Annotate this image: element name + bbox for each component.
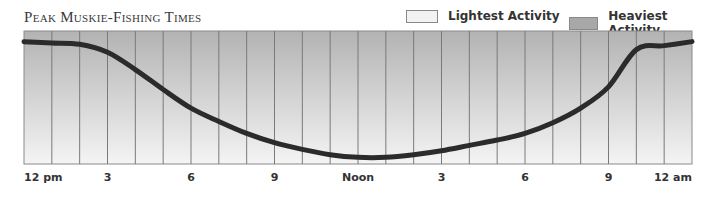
x-tick-label: 9 [605, 171, 613, 184]
chart-plot-area [0, 0, 713, 200]
x-tick-label: 3 [104, 171, 112, 184]
x-axis-labels: 12 pm369Noon36912 am [0, 171, 713, 191]
x-tick-label: Noon [342, 171, 374, 184]
x-tick-label: 6 [521, 171, 529, 184]
x-tick-label: 9 [271, 171, 279, 184]
x-tick-label: 3 [438, 171, 446, 184]
x-tick-label: 6 [187, 171, 195, 184]
x-tick-label: 12 am [654, 171, 692, 184]
x-tick-label: 12 pm [24, 171, 62, 184]
